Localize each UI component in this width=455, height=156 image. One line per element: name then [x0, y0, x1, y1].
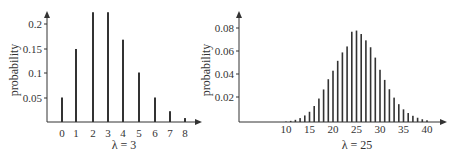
bar: [422, 119, 424, 122]
bar: [332, 71, 334, 122]
bar: [426, 120, 428, 122]
bar: [122, 40, 124, 122]
right-ytick-label: 0.06: [215, 45, 235, 57]
bar: [407, 113, 409, 122]
right-xtick-label: 10: [281, 123, 293, 135]
left-x-axis-label: λ = 3: [112, 138, 137, 152]
right-x-axis-arrow-icon: [440, 119, 447, 125]
right-ytick-label: 0.08: [215, 22, 235, 34]
right-xtick-label: 25: [351, 123, 363, 135]
bar: [299, 118, 301, 122]
right-y-axis-arrow-icon: [236, 11, 242, 18]
bar: [360, 34, 362, 122]
bar: [61, 98, 63, 123]
bar: [184, 118, 186, 122]
bar: [356, 31, 358, 122]
right-bars: [285, 31, 428, 122]
poisson-charts: 0.05 0.1 0.15 0.2 probability 012345678 …: [0, 0, 455, 156]
bar: [337, 61, 339, 122]
bar: [304, 115, 306, 122]
bar: [365, 40, 367, 122]
bar: [403, 109, 405, 122]
bar: [295, 120, 297, 122]
left-xtick-label: 0: [59, 127, 65, 139]
left-chart: 0.05 0.1 0.15 0.2 probability 012345678 …: [7, 11, 202, 152]
left-ytick-label: 0.2: [28, 18, 42, 30]
left-x-axis-arrow-icon: [195, 119, 202, 125]
bar: [398, 104, 400, 122]
bar: [389, 89, 391, 122]
right-xtick-label: 30: [375, 123, 387, 135]
left-y-ticks: 0.05 0.1 0.15 0.2: [23, 18, 47, 104]
bar: [351, 32, 353, 122]
right-xtick-label: 40: [422, 123, 434, 135]
left-ytick-label: 0.05: [23, 92, 43, 104]
right-chart: 0.02 0.04 0.06 0.08 probability 10152025…: [199, 11, 447, 152]
left-ytick-label: 0.15: [23, 43, 43, 55]
left-y-axis-arrow-icon: [44, 11, 50, 18]
bar: [384, 80, 386, 122]
right-xtick-label: 15: [304, 123, 316, 135]
left-xtick-label: 5: [136, 127, 142, 139]
bar: [346, 46, 348, 122]
right-ytick-label: 0.02: [215, 91, 234, 103]
left-xtick-label: 6: [152, 127, 158, 139]
bar: [318, 99, 320, 122]
left-ytick-label: 0.1: [28, 67, 42, 79]
right-x-ticks: 10152025303540: [281, 123, 434, 135]
bar: [379, 70, 381, 122]
bar: [309, 112, 311, 122]
bar: [370, 47, 372, 122]
left-xtick-label: 2: [90, 127, 96, 139]
bar: [138, 73, 140, 122]
left-xtick-label: 8: [182, 127, 188, 139]
bar: [412, 116, 414, 122]
bar: [154, 98, 156, 123]
right-y-ticks: 0.02 0.04 0.06 0.08: [215, 22, 239, 103]
left-xtick-label: 1: [73, 127, 79, 139]
bar: [75, 49, 77, 122]
left-y-axis-label: probability: [7, 44, 21, 97]
bar: [92, 12, 94, 122]
bar: [323, 89, 325, 122]
left-xtick-label: 7: [167, 127, 173, 139]
left-xtick-label: 3: [105, 127, 111, 139]
bar: [342, 52, 344, 122]
right-ytick-label: 0.04: [215, 68, 235, 80]
right-x-axis-label: λ = 25: [342, 138, 373, 152]
right-xtick-label: 20: [328, 123, 340, 135]
bar: [169, 111, 171, 122]
left-bars: [61, 12, 186, 122]
bar: [393, 98, 395, 122]
bar: [375, 58, 377, 122]
right-xtick-label: 35: [398, 123, 410, 135]
right-y-axis-label: probability: [199, 44, 213, 97]
bar: [290, 121, 292, 122]
bar: [417, 118, 419, 122]
bar: [313, 106, 315, 122]
bar: [107, 12, 109, 122]
bar: [328, 79, 330, 122]
